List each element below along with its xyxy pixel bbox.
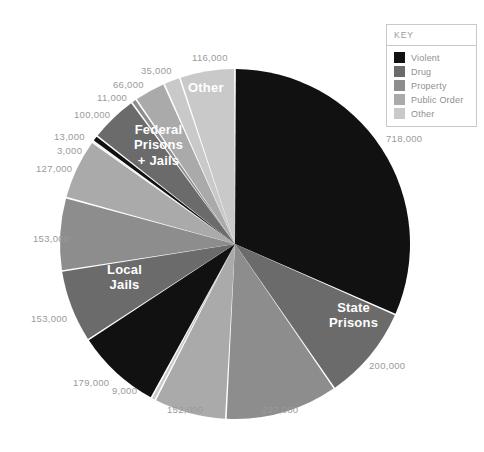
legend-swatch-property [394, 80, 405, 91]
legend-swatch-drug [394, 66, 405, 77]
slice-value-label: 13,000 [54, 131, 85, 142]
legend-label: Public Order [411, 95, 463, 105]
legend: KEY ViolentDrugPropertyPublic OrderOther [386, 24, 477, 127]
slice-value-label: 100,000 [74, 109, 110, 120]
legend-label: Violent [411, 53, 440, 63]
legend-swatch-violent [394, 52, 405, 63]
slice-value-label: 153,000 [33, 233, 69, 244]
legend-label: Drug [411, 67, 431, 77]
legend-title: KEY [387, 25, 476, 46]
slice-value-label: 66,000 [113, 79, 144, 90]
pie-group-label: State Prisons [329, 300, 378, 331]
slice-value-label: 11,000 [97, 92, 127, 103]
pie-group-label: Federal Prisons + Jails [134, 122, 183, 168]
slice-value-label: 127,000 [36, 163, 72, 174]
slice-value-label: 718,000 [386, 133, 422, 144]
legend-items: ViolentDrugPropertyPublic OrderOther [387, 46, 476, 126]
slice-value-label: 179,000 [73, 377, 109, 388]
slice-value-label: 152,000 [167, 404, 203, 415]
legend-row: Other [394, 108, 469, 119]
legend-row: Public Order [394, 94, 469, 105]
slice-value-label: 200,000 [369, 360, 405, 371]
slice-value-label: 237,000 [262, 404, 298, 415]
slice-value-label: 116,000 [192, 52, 228, 63]
legend-row: Drug [394, 66, 469, 77]
pie-group-label: Other [188, 80, 224, 95]
legend-row: Property [394, 80, 469, 91]
legend-row: Violent [394, 52, 469, 63]
legend-label: Other [411, 109, 435, 119]
slice-value-label: 35,000 [141, 65, 172, 76]
slice-value-label: 9,000 [112, 385, 137, 396]
legend-swatch-public-order [394, 94, 405, 105]
legend-swatch-other [394, 108, 405, 119]
legend-label: Property [411, 81, 447, 91]
slice-value-label: 153,000 [31, 313, 67, 324]
pie-group-label: Local Jails [107, 262, 142, 293]
slice-value-label: 3,000 [57, 145, 82, 156]
pie-chart: 718,000200,000237,000152,0009,000179,000… [0, 0, 484, 452]
pie-slices [60, 69, 410, 419]
